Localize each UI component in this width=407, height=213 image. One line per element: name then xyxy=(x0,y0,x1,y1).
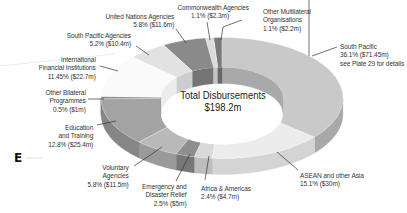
label-other-bilateral: Other Bilateral Programmes 0.5% ($1m) xyxy=(46,89,86,114)
leader-ifi xyxy=(100,66,118,71)
label-un-agencies: United Nations Agencies 5.8% ($11.6m) xyxy=(105,13,174,30)
leader-other-multilateral xyxy=(223,20,242,27)
label-emergency: Emergency and Disaster Relief 2.5% ($5m) xyxy=(142,183,186,208)
label-other-multilateral: Other Multilateral Organisations 1.1% ($… xyxy=(263,8,311,33)
center-title-text: Total Disbursements xyxy=(169,89,277,101)
center-total-value: $198.2m xyxy=(169,101,277,113)
inner-wall-other-multilateral-organisations xyxy=(218,68,222,84)
leader-south-pacific xyxy=(312,47,337,56)
center-total: Total Disbursements $198.2m xyxy=(169,89,277,113)
label-ifi: International Financial Institutions 11.… xyxy=(39,56,96,81)
inner-wall-commonwealth-agencies xyxy=(214,68,218,84)
leader-commonwealth xyxy=(207,22,210,40)
label-africa-americas: Africa & Americas 2.4% ($4.7m) xyxy=(201,185,251,202)
outer-wall-africa-americas xyxy=(194,157,212,174)
label-asean: ASEAN and other Asia 15.1% ($30m) xyxy=(300,172,364,189)
label-education: Education and Training 12.8% ($25.4m) xyxy=(48,124,93,149)
label-voluntary: Voluntary Agencies 5.8% ($11.5m) xyxy=(88,164,129,189)
label-south-pacific: South Pacific 36.1% ($71.45m) see Plate … xyxy=(340,43,404,68)
label-commonwealth: Commonwealth Agencies 1.1% ($2.3m) xyxy=(177,4,242,21)
leader-un xyxy=(176,29,186,43)
section-marker: E xyxy=(14,151,22,165)
label-south-pacific-agencies: South Pacific Agencies 5.2% ($10.4m) xyxy=(67,32,131,49)
